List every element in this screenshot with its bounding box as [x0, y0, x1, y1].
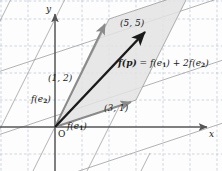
label-vector-f-e2-close: )	[47, 94, 51, 104]
x-axis-label: x	[209, 130, 214, 139]
equation-term1-close: )	[166, 58, 170, 68]
label-vector-f-e1: f(e1)	[67, 122, 87, 131]
figure-canvas	[0, 0, 222, 171]
label-vector-f-e1-head: f(e	[67, 121, 79, 131]
equation-term2-close: )	[205, 58, 209, 68]
equation-term1: f(e	[150, 58, 162, 68]
label-vector-f-e2: f(e2)	[31, 95, 51, 104]
label-point-e2: (1, 2)	[48, 74, 72, 83]
equation: f(p) = f(e1) + 2f(e2)	[118, 59, 209, 68]
equation-equals: =	[140, 58, 148, 68]
label-point-e1: (3, 1)	[104, 104, 128, 113]
equation-term2: f(e	[189, 58, 201, 68]
equation-plus: +	[173, 58, 181, 68]
label-vector-f-e2-head: f(e	[31, 94, 43, 104]
label-vector-f-e1-close: )	[83, 121, 87, 131]
label-point-p: (5, 5)	[120, 19, 144, 28]
y-axis-label: y	[46, 5, 51, 14]
linear-transformation-figure: (5, 5) (1, 2) (3, 1) O x y f(e1) f(e2) f…	[0, 0, 222, 171]
origin-label: O	[58, 130, 65, 139]
equation-lhs: f(p)	[118, 58, 137, 68]
